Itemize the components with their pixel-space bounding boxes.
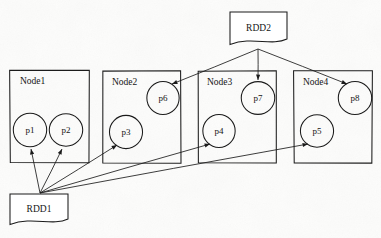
source-rdd1[interactable]: RDD1 [10, 194, 68, 225]
partition-label-p3: p3 [122, 127, 132, 137]
node-label-node4: Node4 [303, 77, 329, 87]
partition-p6[interactable]: p6 [147, 81, 179, 114]
node-node3[interactable]: Node3p7p4 [198, 71, 276, 163]
source-layer: RDD2RDD1 [10, 12, 287, 225]
node-label-node3: Node3 [207, 77, 233, 87]
node-node1[interactable]: Node1p1p2 [10, 70, 90, 162]
partition-p8[interactable]: p8 [338, 81, 371, 114]
partition-label-p4: p4 [215, 126, 225, 136]
arrowhead-rdd1-p2 [58, 149, 62, 155]
source-label-rdd2: RDD2 [246, 23, 271, 33]
edge-rdd2-p7 [256, 49, 260, 80]
node-label-node1: Node1 [20, 76, 46, 86]
partition-label-p5: p5 [313, 126, 323, 136]
partition-p5[interactable]: p5 [300, 115, 333, 147]
source-label-rdd1: RDD1 [27, 204, 52, 214]
diagram-canvas: Node1p1p2Node2p6p3Node3p7p4Node4p8p5 RDD… [0, 0, 381, 238]
node-node4[interactable]: Node4p8p5 [294, 71, 373, 163]
diagram-svg: Node1p1p2Node2p6p3Node3p7p4Node4p8p5 RDD… [0, 0, 381, 238]
node-label-node2: Node2 [112, 77, 138, 87]
partition-label-p1: p1 [26, 125, 35, 135]
partition-p2[interactable]: p2 [49, 114, 82, 146]
partition-label-p7: p7 [254, 93, 264, 103]
partition-p3[interactable]: p3 [109, 115, 142, 148]
partition-p4[interactable]: p4 [203, 115, 235, 148]
partition-label-p2: p2 [62, 125, 71, 135]
source-rdd2[interactable]: RDD2 [230, 12, 287, 45]
edge-rdd1-p4 [40, 143, 210, 193]
partition-label-p6: p6 [159, 93, 169, 103]
arrowhead-rdd2-p7 [256, 75, 260, 80]
arrowhead-rdd2-p6 [172, 80, 178, 84]
partition-p7[interactable]: p7 [241, 82, 274, 115]
edge-rdd1-p1 [30, 149, 40, 193]
node-node2[interactable]: Node2p6p3 [103, 71, 181, 163]
arrowhead-rdd1-p1 [30, 149, 34, 155]
partition-p1[interactable]: p1 [13, 113, 46, 147]
partition-label-p8: p8 [351, 93, 361, 103]
